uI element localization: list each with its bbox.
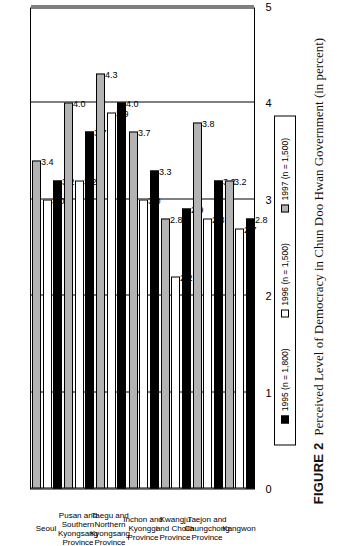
tick-label-1: 1 [263,387,275,398]
bar-value-label: 3.7 [138,128,151,137]
category-label-6: Kangwon [202,524,276,533]
bar-value-label: 4.0 [73,99,86,108]
bar-value-label: 3.8 [202,119,215,128]
bar-value-label: 4.3 [105,70,118,79]
bar-1996-4 [171,276,180,488]
bar-1996-6 [235,228,244,488]
bar-1996-5 [203,218,212,488]
legend-entry-1997: 1997 (n = 1,500) [281,137,290,212]
bar-1997-5 [193,122,202,488]
bar-1995-1 [85,131,94,488]
tick-label-4: 4 [263,98,275,109]
legend-label: 1997 (n = 1,500) [281,137,290,200]
tick-label-3: 3 [263,194,275,205]
tick-label-5: 5 [263,2,275,13]
bar-value-label: 3.3 [159,167,172,176]
bar-value-label: 2.8 [170,215,183,224]
bar-1995-5 [214,180,223,488]
bar-1997-3 [129,131,138,488]
plot-area: 3.43.03.24.03.23.74.33.94.03.73.03.32.82… [30,7,255,489]
tick-label-2: 2 [263,291,275,302]
bar-1996-3 [139,199,148,488]
bar-1997-4 [161,218,170,488]
figure-caption-text: Perceived Level of Democracy in Chun Doo… [311,37,326,435]
bar-1997-0 [32,160,41,488]
legend-label: 1995 (n = 1,800) [281,348,290,411]
legend-label: 1996 (n = 1,500) [281,243,290,306]
figure-caption: FIGURE 2Perceived Level of Democracy in … [302,0,336,541]
gridline-5 [31,5,254,6]
figure-number: FIGURE 2 [311,442,326,504]
bar-1996-2 [107,112,116,488]
bar-1995-4 [182,208,191,488]
bar-1996-1 [75,180,84,488]
legend-entry-1995: 1995 (n = 1,800) [281,348,290,423]
chart-legend: 1995 (n = 1,800)1996 (n = 1,500)1997 (n … [274,115,296,445]
bar-value-label: 3.4 [41,157,54,166]
legend-swatch-1995-icon [281,415,289,423]
bar-value-label: 3.2 [234,177,247,186]
bar-1997-2 [96,73,105,488]
bar-1996-0 [43,199,52,488]
figure-body: 3.43.03.24.03.23.74.33.94.03.73.03.32.82… [24,0,314,541]
bar-1995-6 [246,218,255,488]
bar-value-label: 2.8 [255,215,268,224]
bar-value-label: 4.0 [126,99,139,108]
bar-1995-0 [53,180,62,488]
bar-1997-6 [225,180,234,488]
plot-inner: 3.43.03.24.03.23.74.33.94.03.73.03.32.82… [31,8,254,488]
bar-1997-1 [64,102,73,488]
bar-1995-3 [150,170,159,488]
legend-entry-1996: 1996 (n = 1,500) [281,243,290,318]
tick-label-0: 0 [263,484,275,495]
legend-swatch-1997-icon [281,204,289,212]
legend-swatch-1996-icon [281,309,289,317]
bar-1995-2 [117,102,126,488]
